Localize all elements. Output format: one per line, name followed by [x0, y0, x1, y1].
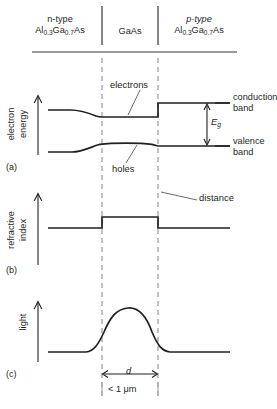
- header-p-type-line2: Al0.3Ga0.7As: [160, 25, 238, 36]
- axis-label-refractive-index-line1: refractive: [6, 211, 16, 249]
- axis-label-refractive-index-line2: index: [18, 219, 28, 241]
- header-label-gaas: GaAs: [104, 26, 156, 37]
- label-valence-band-line1: valence: [233, 136, 265, 147]
- panel-a-axis-arrow: [34, 96, 42, 156]
- annotation-band-gap: Eg: [211, 117, 221, 128]
- axis-label-refractive-index: refractive: [6, 192, 17, 268]
- holes-leader-line: [126, 145, 137, 163]
- header-gaas-line1: GaAs: [119, 26, 142, 36]
- axis-label-light-line1: light: [18, 314, 28, 331]
- header-label-n-type: n-type Al0.3Ga0.7As: [22, 14, 98, 35]
- annotation-electrons: electrons: [110, 80, 148, 91]
- panel-tag-b: (b): [6, 265, 17, 275]
- annotation-holes: holes: [112, 164, 134, 175]
- valence-band-curve: [48, 143, 230, 152]
- axis-label-electron-energy-line2: energy: [18, 110, 28, 138]
- label-conduction-band-line1: conduction: [233, 92, 277, 103]
- refractive-index-curve: [48, 217, 230, 228]
- diagram-vector-layer: [0, 0, 277, 409]
- panel-tag-c: (c): [6, 369, 17, 379]
- annotation-active-layer-width-symbol: d: [126, 366, 131, 377]
- label-conduction-band-line2: band: [233, 103, 277, 114]
- axis-label-electron-energy-line1: electron: [6, 108, 16, 141]
- axis-label-refractive-index-2: index: [18, 192, 29, 268]
- label-valence-band: valence band: [233, 136, 265, 157]
- annotation-distance: distance: [199, 193, 234, 204]
- axis-label-light: light: [18, 292, 29, 352]
- header-p-type-line1: p-type: [186, 14, 212, 24]
- label-conduction-band: conduction band: [233, 92, 277, 113]
- distance-leader-line: [161, 192, 197, 200]
- band-gap-arrow: [204, 104, 210, 145]
- panel-tag-a: (a): [6, 162, 17, 172]
- axis-label-electron-energy-2: energy: [18, 88, 29, 160]
- axis-label-electron-energy: electron: [6, 88, 17, 160]
- panel-c-axis-arrow: [34, 302, 42, 363]
- conduction-band-curve: [48, 103, 230, 117]
- panel-b-axis-arrow: [34, 194, 42, 266]
- header-label-p-type: p-type Al0.3Ga0.7As: [160, 14, 238, 35]
- header-n-type-line2: Al0.3Ga0.7As: [22, 25, 98, 36]
- figure-canvas: n-type Al0.3Ga0.7As GaAs p-type Al0.3Ga0…: [0, 0, 277, 409]
- light-intensity-curve: [48, 308, 230, 352]
- header-n-type-line1: n-type: [47, 14, 73, 24]
- electrons-leader-line: [128, 90, 140, 115]
- label-valence-band-line2: band: [233, 147, 265, 158]
- annotation-active-layer-width-value: < 1 μm: [108, 384, 137, 395]
